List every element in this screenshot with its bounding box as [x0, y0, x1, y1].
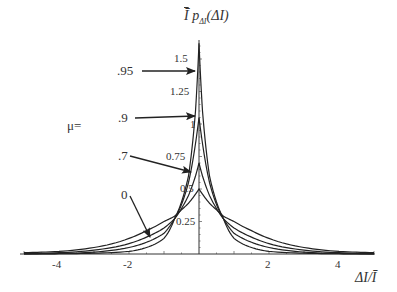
title-sub: ΔI	[199, 17, 206, 26]
series-label-09: .9	[118, 110, 128, 126]
y-tick-label-0.75: 0.75	[166, 150, 185, 162]
y-tick-label-1.5: 1.5	[174, 52, 188, 64]
series-label-095: .95	[117, 63, 133, 79]
mu-prefix-label: μ=	[67, 118, 81, 134]
x-tick-label--4: -4	[52, 258, 61, 270]
series-label-07: .7	[118, 148, 128, 164]
title-ibar: Ī	[184, 8, 189, 23]
y-tick-label-1.25: 1.25	[170, 85, 189, 97]
y-tick-label-1: 1	[190, 118, 196, 130]
y-tick-label-0.25: 0.25	[176, 215, 195, 227]
arrow-0	[130, 196, 150, 237]
chart-plot	[0, 0, 397, 292]
x-axis-label: ΔI/Ī	[355, 270, 376, 286]
series-label-0: 0	[121, 187, 128, 203]
x-tick-label-4: 4	[335, 258, 341, 270]
x-tick-label-2: 2	[265, 258, 271, 270]
y-tick-label-0.5: 0.5	[180, 182, 194, 194]
x-tick-label--2: -2	[123, 258, 132, 270]
title-arg: (ΔI)	[207, 8, 229, 23]
y-axis-title: Ī pΔI(ΔI)	[184, 8, 229, 26]
arrow-09	[135, 116, 195, 118]
